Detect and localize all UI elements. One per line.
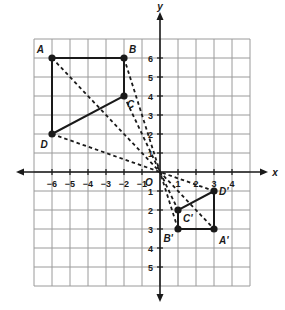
vertex-point <box>174 206 181 213</box>
y-tick-label: 3 <box>148 225 153 235</box>
y-tick-label: 2 <box>148 130 153 140</box>
y-tick-label: 6 <box>148 54 153 64</box>
x-tick-label: −4 <box>83 179 93 189</box>
vertex-label-b-prime: B' <box>163 233 173 244</box>
y-tick-label: 5 <box>148 263 153 273</box>
vertex-point <box>48 54 55 61</box>
y-axis-down-arrow-icon <box>157 294 164 302</box>
y-tick-label: 1 <box>148 149 153 159</box>
x-tick-label: −2 <box>119 179 129 189</box>
y-tick-label: 4 <box>148 92 153 102</box>
vertex-label-a-prime: A' <box>218 235 229 246</box>
labels: −6−5−4−3−2−1123465432112345OxyABCDA'B'C'… <box>36 1 278 273</box>
origin-label: O <box>145 177 153 188</box>
x-axis-right-arrow-icon <box>260 169 268 176</box>
y-tick-label: 3 <box>148 111 153 121</box>
vertex-label-a: A <box>36 44 44 55</box>
x-tick-label: 2 <box>193 179 198 189</box>
vertex-label-c: C <box>127 99 135 110</box>
vertex-point <box>120 54 127 61</box>
y-axis-label: y <box>156 1 163 12</box>
x-tick-label: 3 <box>211 179 216 189</box>
vertex-point <box>48 130 55 137</box>
x-tick-label: −6 <box>47 179 57 189</box>
x-tick-label: −3 <box>101 179 111 189</box>
x-axis-left-arrow-icon <box>16 169 24 176</box>
coordinate-plane: −6−5−4−3−2−1123465432112345OxyABCDA'B'C'… <box>0 0 285 310</box>
vertex-label-c-prime: C' <box>183 213 193 224</box>
y-tick-label: 1 <box>148 187 153 197</box>
y-tick-label: 4 <box>148 244 153 254</box>
grid <box>34 39 250 286</box>
y-tick-label: 5 <box>148 73 153 83</box>
x-tick-label: 1 <box>175 179 180 189</box>
vertex-label-d-prime: D' <box>219 186 229 197</box>
vertex-label-d: D <box>40 139 47 150</box>
x-tick-label: 4 <box>229 179 234 189</box>
vertex-point <box>210 225 217 232</box>
x-tick-label: −5 <box>65 179 75 189</box>
vertex-point <box>174 225 181 232</box>
x-axis-label: x <box>271 167 278 178</box>
y-axis-up-arrow-icon <box>157 12 164 20</box>
vertex-label-b: B <box>129 44 136 55</box>
y-tick-label: 2 <box>148 206 153 216</box>
